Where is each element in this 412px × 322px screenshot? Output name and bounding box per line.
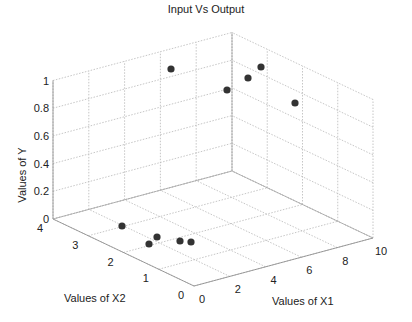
x2-tick-label: 2: [107, 256, 113, 268]
data-point-marker: [176, 237, 183, 244]
y-tick-label: 0.6: [34, 130, 49, 142]
back-edge-line: [232, 171, 373, 238]
data-point-marker: [223, 86, 230, 93]
data-point-marker: [145, 240, 152, 247]
x1-axis-label: Values of X1: [272, 295, 334, 307]
x1-tick-label: 2: [235, 283, 241, 295]
data-point-marker: [257, 63, 264, 70]
wall-gridline: [53, 143, 232, 191]
x1-tick-label: 4: [271, 274, 277, 286]
data-point-marker: [244, 74, 251, 81]
x2-axis-label: Values of X2: [64, 292, 126, 304]
plot-area: 02468100123400.20.40.60.81 Values of Y V…: [0, 0, 412, 322]
data-point-marker: [187, 238, 194, 245]
x1-tick-label: 10: [375, 245, 387, 257]
data-point-marker: [291, 99, 298, 106]
y-tick-label: 1: [43, 75, 49, 87]
floor-gridline: [159, 221, 338, 269]
data-points: [118, 63, 298, 247]
chart-figure: Input Vs Output 02468100123400.20.40.60.…: [0, 0, 412, 322]
wall-gridline: [53, 60, 232, 108]
y-tick-label: 0: [43, 213, 49, 225]
x1-tick-label: 8: [342, 255, 348, 267]
data-point-marker: [118, 222, 125, 229]
x1-tick-label: 0: [199, 293, 205, 305]
wall-gridline: [53, 116, 232, 164]
data-point-marker: [153, 233, 160, 240]
data-point-marker: [167, 65, 174, 72]
wall-gridline: [53, 88, 232, 136]
wall-gridline: [53, 33, 232, 81]
x1-tick-label: 6: [306, 264, 312, 276]
x2-tick-label: 3: [72, 239, 78, 251]
y-tick-label: 0.4: [34, 158, 49, 170]
x2-tick-label: 0: [178, 289, 184, 301]
wall-gridline: [232, 88, 373, 155]
y-tick-label: 0.8: [34, 102, 49, 114]
floor-gridline: [125, 200, 266, 267]
grid-lines: [53, 33, 373, 287]
axes: [53, 33, 373, 287]
y-tick-label: 0.2: [34, 185, 49, 197]
y-axis-label: Values of Y: [16, 147, 28, 203]
x2-tick-label: 1: [143, 272, 149, 284]
